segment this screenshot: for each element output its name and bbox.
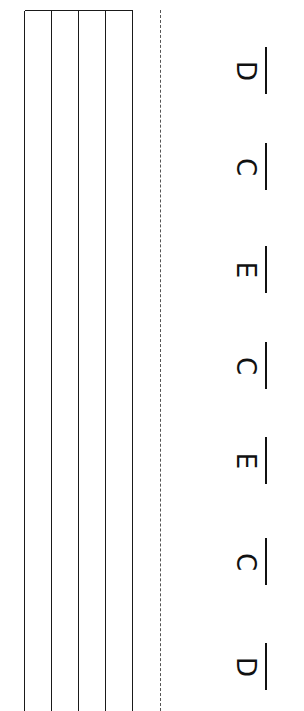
answer-item: D (228, 643, 274, 691)
answer-item: D (228, 47, 274, 95)
note-letter: C (228, 143, 264, 191)
string-line-1 (24, 11, 25, 711)
answer-blank-line[interactable] (265, 47, 267, 94)
string-line-3 (78, 11, 79, 711)
answer-blank-line[interactable] (265, 246, 267, 293)
note-letter: D (228, 47, 264, 95)
note-letter: C (228, 342, 264, 390)
note-letter: E (228, 437, 264, 485)
answer-blank-line[interactable] (265, 538, 267, 585)
answer-blank-line[interactable] (265, 342, 267, 389)
answer-blank-line[interactable] (265, 643, 267, 690)
note-letter: E (228, 246, 264, 294)
answer-blank-line[interactable] (265, 143, 267, 190)
string-line-2 (51, 11, 52, 711)
string-line-5 (132, 11, 133, 711)
answer-item: C (228, 342, 274, 390)
string-line-4 (105, 11, 106, 711)
answer-item: C (228, 538, 274, 586)
note-letter: D (228, 643, 264, 691)
note-letter: C (228, 538, 264, 586)
answer-item: E (228, 437, 274, 485)
dashed-cut-line (160, 10, 161, 711)
answer-blank-line[interactable] (265, 437, 267, 484)
fretboard-grid (25, 10, 133, 711)
answer-item: E (228, 246, 274, 294)
answer-item: C (228, 143, 274, 191)
